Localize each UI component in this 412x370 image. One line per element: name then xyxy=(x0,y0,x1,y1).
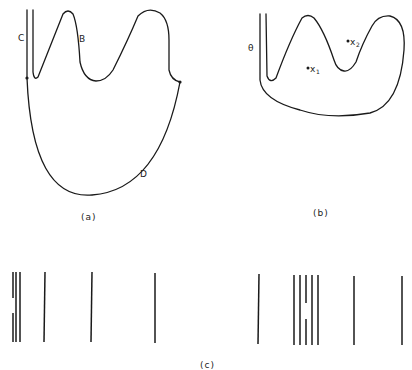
label-d: D xyxy=(140,169,147,179)
caption-b: (b) xyxy=(313,208,329,218)
endpoint-dot-right xyxy=(178,80,181,83)
curve-d xyxy=(27,78,180,195)
domain-boundary xyxy=(260,14,404,116)
bar xyxy=(258,274,259,344)
bar xyxy=(91,272,92,342)
bar xyxy=(44,272,45,342)
label-x1-subscript: 1 xyxy=(316,68,320,75)
panel-c: (c) xyxy=(13,272,402,370)
label-b: B xyxy=(79,34,85,44)
panel-b: θ x 1 x 2 (b) xyxy=(248,14,404,218)
caption-c: (c) xyxy=(200,360,215,370)
figure-canvas: C B D (a) θ x 1 x 2 (b) (c) xyxy=(0,0,412,370)
panel-a: C B D (a) xyxy=(18,10,182,222)
label-c: C xyxy=(18,33,24,43)
label-theta: θ xyxy=(248,43,254,53)
label-x2-subscript: 2 xyxy=(356,41,360,48)
caption-a: (a) xyxy=(81,212,97,222)
curve-b xyxy=(33,10,180,82)
endpoint-dot-left xyxy=(25,76,28,79)
